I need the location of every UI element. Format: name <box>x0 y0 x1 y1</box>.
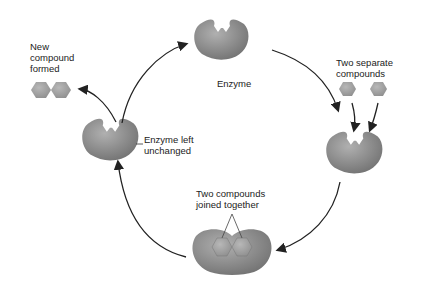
enzyme-bottom <box>192 229 271 275</box>
label-two-separate-compounds: Two separate compounds <box>336 57 393 79</box>
label-enzyme: Enzyme <box>217 78 251 89</box>
label-new-compound-formed: New compound formed <box>30 41 74 74</box>
label-two-compounds-joined: Two compounds joined together <box>196 188 265 210</box>
new-compound-hexagons <box>31 82 71 98</box>
enzyme-right <box>326 132 382 174</box>
label-enzyme-left-unchanged: Enzyme left unchanged <box>144 134 194 156</box>
enzyme-left <box>82 119 138 161</box>
enzyme-top <box>194 20 248 60</box>
separate-compound-hexagons <box>339 82 387 96</box>
